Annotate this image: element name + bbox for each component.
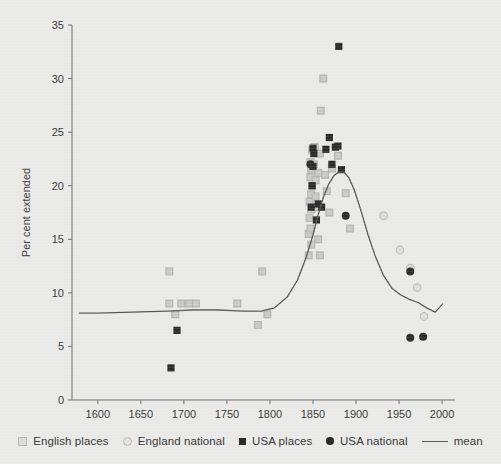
data-point <box>315 169 322 176</box>
chart-legend: English placesEngland nationalUSA places… <box>0 428 501 454</box>
x-tick-label: 1650 <box>129 408 153 420</box>
data-point <box>172 311 179 318</box>
series-english-places <box>166 75 354 328</box>
data-point <box>420 313 428 321</box>
data-point <box>306 214 313 221</box>
x-tick-label: 1700 <box>172 408 196 420</box>
data-point <box>309 182 316 189</box>
legend-item-usa-places[interactable]: USA places <box>239 435 312 447</box>
data-point <box>326 134 333 141</box>
x-tick-label: 1950 <box>387 408 411 420</box>
data-point <box>316 150 323 157</box>
legend-item-label: USA national <box>340 435 408 447</box>
data-point <box>326 209 333 216</box>
data-point <box>413 284 421 292</box>
data-point <box>335 43 342 50</box>
y-tick-label: 20 <box>52 180 64 192</box>
data-point <box>322 146 329 153</box>
data-point <box>347 225 354 232</box>
data-point <box>259 268 266 275</box>
y-tick-label: 35 <box>52 19 64 31</box>
x-tick-label: 1600 <box>86 408 110 420</box>
data-point <box>328 161 335 168</box>
legend-item-label: mean <box>454 435 483 447</box>
data-point <box>307 225 314 232</box>
y-tick-label: 10 <box>52 287 64 299</box>
data-point <box>380 212 388 220</box>
mean-line <box>79 172 443 313</box>
data-point <box>406 267 414 275</box>
y-tick-label: 30 <box>52 73 64 85</box>
legend-open-circle-icon <box>123 437 132 446</box>
data-point <box>317 107 324 114</box>
legend-item-label: English places <box>33 435 109 447</box>
data-point <box>406 334 414 342</box>
data-point <box>234 300 241 307</box>
legend-item-usa-national[interactable]: USA national <box>326 435 407 447</box>
data-point <box>342 212 350 220</box>
data-point <box>167 364 174 371</box>
x-tick-label: 2000 <box>430 408 454 420</box>
data-point <box>166 300 173 307</box>
legend-item-mean[interactable]: mean <box>422 435 483 447</box>
data-point <box>312 193 319 200</box>
data-point <box>178 300 185 307</box>
data-point <box>419 333 427 341</box>
y-tick-label: 15 <box>52 233 64 245</box>
data-point <box>316 252 323 259</box>
x-tick-label: 1850 <box>301 408 325 420</box>
data-point <box>320 75 327 82</box>
legend-open-square-icon <box>18 437 27 446</box>
data-point <box>308 204 315 211</box>
x-tick-label: 1800 <box>258 408 282 420</box>
scatter-plot: 0510152025303516001650170017501800185019… <box>0 0 501 464</box>
data-point <box>306 160 314 168</box>
legend-item-label: USA places <box>252 435 312 447</box>
data-point <box>310 150 317 157</box>
data-point <box>315 236 322 243</box>
y-axis-label: Per cent extended <box>20 168 32 257</box>
y-tick-label: 25 <box>52 126 64 138</box>
data-point <box>334 142 341 149</box>
data-point <box>264 311 271 318</box>
legend-item-label: England national <box>138 435 225 447</box>
legend-filled-square-icon <box>239 438 246 445</box>
y-tick-label: 0 <box>58 394 64 406</box>
data-point <box>322 172 329 179</box>
legend-item-england-national[interactable]: England national <box>123 435 225 447</box>
data-point <box>255 322 262 329</box>
data-point <box>166 268 173 275</box>
legend-filled-circle-icon <box>326 437 334 445</box>
data-point <box>193 300 200 307</box>
x-tick-label: 1750 <box>215 408 239 420</box>
data-point <box>396 246 404 254</box>
series-mean <box>79 172 443 313</box>
data-point <box>186 300 193 307</box>
chart-figure: 0510152025303516001650170017501800185019… <box>0 0 501 464</box>
data-point <box>173 327 180 334</box>
legend-item-english-places[interactable]: English places <box>18 435 109 447</box>
legend-line-icon <box>422 441 448 442</box>
y-tick-label: 5 <box>58 340 64 352</box>
data-point <box>335 152 342 159</box>
data-point <box>342 190 349 197</box>
x-tick-label: 1900 <box>344 408 368 420</box>
